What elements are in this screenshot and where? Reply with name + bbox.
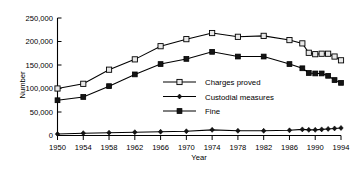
x-tick-label: 1954 [75, 143, 92, 152]
data-point-marker [339, 125, 343, 130]
data-point-marker [300, 127, 304, 132]
data-point-marker [235, 34, 240, 39]
y-axis-tick-labels: 250,000200,000150,000100,00050,0000 [26, 14, 53, 141]
data-point-marker [287, 37, 292, 42]
legend-label: Fine [205, 107, 220, 116]
y-tick-label: 200,000 [26, 37, 53, 46]
data-point-marker [158, 129, 162, 134]
data-point-marker [236, 128, 240, 133]
x-tick-label: 1978 [229, 143, 246, 152]
data-point-marker [332, 54, 337, 59]
data-point-marker [184, 37, 189, 42]
data-point-marker [210, 49, 215, 54]
data-point-marker [81, 81, 86, 86]
data-point-marker [313, 52, 318, 57]
data-point-marker [107, 130, 111, 135]
data-point-marker [177, 94, 181, 99]
data-point-marker [55, 98, 60, 103]
x-axis-ticks [58, 136, 342, 141]
data-point-marker [106, 67, 111, 72]
x-tick-label: 1982 [255, 143, 272, 152]
x-tick-label: 1958 [101, 143, 118, 152]
data-point-marker [319, 127, 323, 132]
legend-item-fine[interactable]: Fine [163, 107, 220, 116]
series-line [58, 52, 342, 100]
data-point-marker [332, 78, 337, 83]
data-point-marker [132, 57, 137, 62]
y-tick-label: 150,000 [26, 61, 53, 70]
data-point-marker [300, 66, 305, 71]
data-point-marker [177, 79, 182, 84]
y-tick-label: 100,000 [26, 84, 53, 93]
data-point-marker [184, 129, 188, 134]
data-point-marker [287, 128, 291, 133]
data-point-marker [107, 84, 112, 89]
x-tick-label: 1994 [333, 143, 350, 152]
data-point-marker [81, 95, 86, 100]
line-chart: Number 250,000200,000150,000100,00050,00… [0, 0, 354, 176]
x-tick-label: 1966 [152, 143, 169, 152]
data-point-marker [326, 51, 331, 56]
data-point-marker [306, 71, 311, 76]
data-point-marker [326, 126, 330, 131]
y-axis-ticks [58, 18, 62, 136]
data-point-marker [261, 128, 265, 133]
x-axis-title: Year [191, 153, 207, 162]
x-tick-label: 1950 [49, 143, 66, 152]
data-point-marker [306, 50, 311, 55]
legend-label: Charges proved [205, 78, 260, 87]
data-point-marker [300, 41, 305, 46]
chart-legend: Charges provedCustodial measuresFine [163, 78, 274, 116]
data-point-marker [307, 127, 311, 132]
data-point-marker [287, 62, 292, 67]
data-point-marker [55, 86, 60, 91]
data-point-marker [210, 30, 215, 35]
y-tick-label: 50,000 [30, 108, 53, 117]
series-custodial-measures [55, 125, 343, 136]
data-point-marker [81, 131, 85, 136]
data-point-marker [132, 72, 137, 77]
data-point-marker [313, 127, 317, 132]
data-point-marker [133, 130, 137, 135]
y-tick-label: 250,000 [26, 14, 53, 23]
data-point-marker [326, 73, 331, 78]
data-point-marker [184, 56, 189, 61]
x-tick-label: 1990 [307, 143, 324, 152]
legend-item-charges-proved[interactable]: Charges proved [163, 78, 260, 87]
series-line [58, 33, 342, 88]
x-tick-label: 1986 [281, 143, 298, 152]
chart-canvas: Number 250,000200,000150,000100,00050,00… [0, 0, 354, 176]
x-tick-label: 1970 [178, 143, 195, 152]
data-point-marker [210, 127, 214, 132]
data-point-marker [332, 126, 336, 131]
legend-item-custodial-measures[interactable]: Custodial measures [163, 93, 274, 102]
x-axis-tick-labels: 1950195419581962196619701974197819821986… [49, 143, 349, 152]
data-series-layer [55, 30, 344, 136]
y-tick-label: 0 [49, 131, 53, 140]
data-point-marker [319, 51, 324, 56]
data-point-marker [313, 71, 318, 76]
data-point-marker [158, 62, 163, 67]
x-tick-label: 1974 [204, 143, 221, 152]
data-point-marker [261, 33, 266, 38]
data-point-marker [236, 54, 241, 59]
data-point-marker [338, 58, 343, 63]
series-line [58, 128, 342, 134]
data-point-marker [177, 109, 182, 114]
series-charges-proved [55, 30, 344, 91]
data-point-marker [261, 54, 266, 59]
x-tick-label: 1962 [126, 143, 143, 152]
data-point-marker [319, 71, 324, 76]
data-point-marker [158, 44, 163, 49]
data-point-marker [339, 80, 344, 85]
legend-label: Custodial measures [205, 93, 274, 102]
